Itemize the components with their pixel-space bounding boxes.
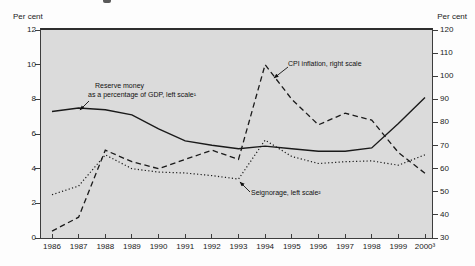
x-axis-tick (211, 234, 212, 238)
x-axis-tick (78, 234, 79, 238)
x-axis-label: 1987 (65, 242, 93, 251)
reserve-money-series-label-line1: Reserve money (95, 81, 196, 90)
x-axis-label: 1995 (278, 242, 306, 251)
reserve-money-series-label: Reserve money as a percentage of GDP, le… (88, 81, 196, 99)
left-axis-label: 6 (8, 129, 36, 139)
x-axis-tick (291, 234, 292, 238)
x-axis-label: 1999 (384, 242, 412, 251)
x-axis-label: 1991 (171, 242, 199, 251)
right-axis-label: 50 (440, 187, 470, 197)
seignorage-annotation-arrow-icon (240, 182, 250, 192)
x-axis-tick (345, 234, 346, 238)
right-axis-tick (433, 145, 438, 146)
x-axis-tick (318, 234, 319, 238)
x-axis-tick (52, 234, 53, 238)
right-axis-label: 70 (440, 141, 470, 151)
right-axis-label: 100 (440, 71, 470, 81)
right-axis-tick (433, 76, 438, 77)
x-axis-tick (131, 234, 132, 238)
left-axis-label: 12 (8, 25, 36, 35)
cpi-series-label: CPI inflation, right scale (288, 59, 362, 68)
right-axis-tick (433, 214, 438, 215)
left-axis-title: Per cent (13, 12, 43, 21)
x-axis-label: 1992 (198, 242, 226, 251)
left-axis-label: 2 (8, 198, 36, 208)
x-axis-tick (265, 234, 266, 238)
x-axis-label: 1998 (358, 242, 386, 251)
cropped-title-fragment (103, 0, 111, 3)
cpi-annotation-arrow-icon (274, 67, 288, 78)
left-axis-label: 8 (8, 94, 36, 104)
right-axis-label: 110 (440, 48, 470, 58)
series-line-0 (52, 98, 425, 152)
right-axis-tick (433, 53, 438, 54)
right-axis-tick (433, 238, 438, 239)
right-axis-label: 30 (440, 233, 470, 243)
left-axis-label: 10 (8, 60, 36, 70)
x-axis-label: 1988 (91, 242, 119, 251)
right-axis-label: 60 (440, 164, 470, 174)
chart-canvas (41, 30, 432, 238)
x-axis-label: 2000³ (411, 242, 439, 251)
x-axis-tick (105, 234, 106, 238)
x-axis-tick (398, 234, 399, 238)
right-axis-label: 90 (440, 94, 470, 104)
x-axis-tick (238, 234, 239, 238)
x-axis-label: 1996 (304, 242, 332, 251)
x-axis-label: 1990 (145, 242, 173, 251)
x-axis-tick (158, 234, 159, 238)
x-axis-label: 1986 (38, 242, 66, 251)
reserve-money-series-label-line2: as a percentage of GDP, left scale¹ (88, 90, 196, 99)
left-axis-label: 4 (8, 164, 36, 174)
x-axis-tick (425, 234, 426, 238)
x-axis-label: 1994 (251, 242, 279, 251)
x-axis-tick (185, 234, 186, 238)
seignorage-series-label: Seignorage, left scale² (251, 188, 321, 197)
x-axis-label: 1997 (331, 242, 359, 251)
left-axis-label: 0 (8, 233, 36, 243)
right-axis-label: 80 (440, 117, 470, 127)
x-axis-tick (371, 234, 372, 238)
right-axis-tick (433, 99, 438, 100)
right-axis-tick (433, 122, 438, 123)
right-axis-label: 40 (440, 210, 470, 220)
right-axis-title: Per cent (431, 12, 467, 21)
chart-figure: Per cent Per cent Reserve money as a per… (0, 0, 475, 266)
x-axis-label: 1993 (225, 242, 253, 251)
right-axis-tick (433, 168, 438, 169)
right-axis-tick (433, 191, 438, 192)
right-axis-tick (433, 30, 438, 31)
x-axis-label: 1989 (118, 242, 146, 251)
right-axis-label: 120 (440, 25, 470, 35)
